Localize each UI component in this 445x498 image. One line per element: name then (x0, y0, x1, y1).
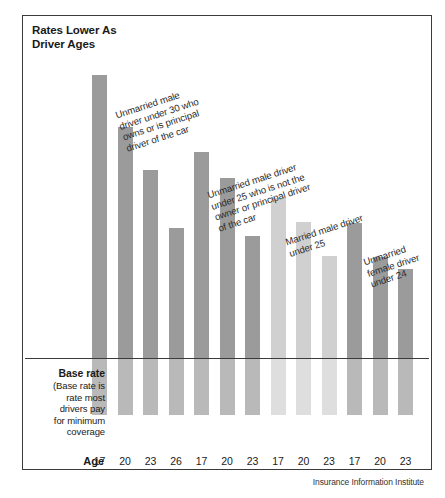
bar-segment-below-base (169, 358, 184, 415)
age-tick-3: 26 (164, 455, 188, 467)
bar-segment-below-base (118, 358, 133, 415)
age-tick-0: 17 (88, 455, 112, 467)
age-tick-8: 20 (292, 455, 316, 467)
bar-age-23-9 (322, 256, 337, 415)
bar-age-17-7 (271, 198, 286, 415)
age-tick-11: 20 (368, 455, 392, 467)
bar-segment-below-base (296, 358, 311, 415)
bar-segment-above-base (322, 256, 337, 358)
age-tick-9: 23 (317, 455, 341, 467)
bar-segment-above-base (398, 269, 413, 358)
bar-segment-below-base (347, 358, 362, 415)
base-rate-caption: Base rate (Base rate is rate most driver… (27, 367, 105, 438)
bar-segment-above-base (347, 223, 362, 358)
bar-segment-below-base (245, 358, 260, 415)
bar-age-20-1 (118, 127, 133, 415)
bar-age-17-10 (347, 223, 362, 415)
bar-segment-above-base (92, 75, 107, 358)
age-tick-7: 17 (266, 455, 290, 467)
bar-segment-below-base (398, 358, 413, 415)
base-rate-body: (Base rate is rate most drivers pay for … (27, 380, 105, 438)
bar-segment-below-base (143, 358, 158, 415)
bar-segment-above-base (118, 127, 133, 358)
bar-segment-below-base (220, 358, 235, 415)
annotation-0: Unmarried male driver under 30 who owns … (114, 84, 207, 154)
bar-age-17-0 (92, 75, 107, 415)
age-tick-1: 20 (113, 455, 137, 467)
plot-area: Base rate (Base rate is rate most driver… (22, 15, 432, 470)
bar-age-26-3 (169, 228, 184, 415)
bar-age-23-2 (143, 170, 158, 415)
bar-segment-above-base (143, 170, 158, 358)
bar-segment-below-base (322, 358, 337, 415)
age-tick-4: 17 (190, 455, 214, 467)
base-rate-line (25, 358, 429, 359)
bar-segment-below-base (194, 358, 209, 415)
bar-segment-above-base (194, 152, 209, 358)
age-tick-5: 20 (215, 455, 239, 467)
bar-segment-below-base (373, 358, 388, 415)
bar-segment-above-base (169, 228, 184, 358)
bar-age-23-6 (245, 236, 260, 415)
chart-screenshot: Rates Lower As Driver Ages Base rate (Ba… (0, 0, 445, 498)
base-rate-heading: Base rate (27, 367, 105, 380)
bar-segment-above-base (245, 236, 260, 358)
source-credit: Insurance Information Institute (313, 477, 424, 487)
bar-segment-below-base (271, 358, 286, 415)
bar-segment-above-base (271, 198, 286, 358)
bar-age-23-12 (398, 269, 413, 415)
age-tick-6: 23 (241, 455, 265, 467)
annotation-3: Unmarried female driver under 24 (362, 240, 424, 290)
age-tick-2: 23 (139, 455, 163, 467)
age-tick-12: 23 (394, 455, 418, 467)
age-tick-10: 17 (343, 455, 367, 467)
